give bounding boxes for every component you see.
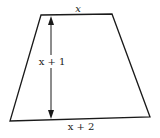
height-label: x + 1 [39,56,66,67]
trapezoid-shape [10,14,150,121]
arrowhead-down-icon [48,110,54,119]
trapezoid-diagram: x x + 1 x + 2 [0,0,160,138]
top-label: x [75,3,81,14]
arrowhead-up-icon [48,16,54,25]
bottom-label: x + 2 [68,121,95,132]
